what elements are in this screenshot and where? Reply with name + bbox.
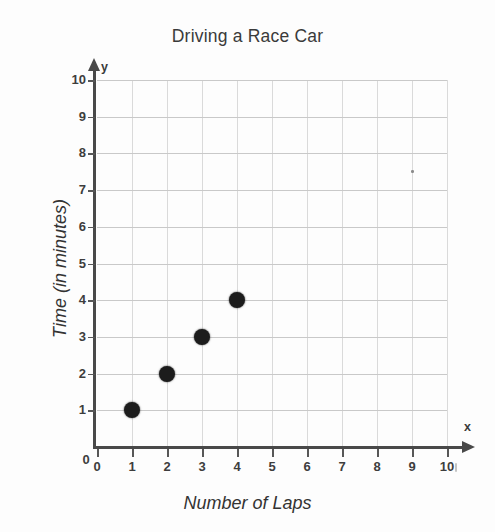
y-tick xyxy=(88,227,95,229)
chart-figure: Driving a Race Car y x 01234567891001234… xyxy=(0,0,495,532)
gridline-horizontal xyxy=(97,80,447,81)
plot-area xyxy=(97,80,447,447)
gridline-horizontal xyxy=(97,374,447,375)
y-tick-label: 10 xyxy=(58,72,86,87)
x-tick-label: 10 xyxy=(432,459,462,474)
chart-title: Driving a Race Car xyxy=(0,26,495,47)
gridline-horizontal xyxy=(97,153,447,154)
x-tick xyxy=(307,449,309,457)
x-tick-label: 5 xyxy=(257,459,287,474)
y-tick xyxy=(88,374,95,376)
x-tick xyxy=(412,449,414,457)
y-tick xyxy=(88,264,95,266)
data-point xyxy=(159,366,175,382)
y-axis-line xyxy=(93,68,96,449)
x-axis-line xyxy=(93,446,467,449)
y-axis-title: Time (in minutes) xyxy=(50,119,71,419)
y-tick xyxy=(88,153,95,155)
scan-speck-artifact xyxy=(455,463,457,472)
x-tick-label: 6 xyxy=(292,459,322,474)
x-tick-label: 3 xyxy=(187,459,217,474)
x-tick-label: 7 xyxy=(327,459,357,474)
y-tick-label: 0 xyxy=(72,452,100,467)
x-tick xyxy=(167,449,169,457)
x-axis-title: Number of Laps xyxy=(0,493,495,514)
x-tick xyxy=(342,449,344,457)
y-tick xyxy=(88,80,95,82)
gridline-horizontal xyxy=(97,190,447,191)
scan-speck-artifact xyxy=(411,170,414,173)
x-tick xyxy=(447,449,449,457)
y-axis-symbol: y xyxy=(101,60,108,74)
y-axis-arrow-icon xyxy=(88,58,100,71)
gridline-vertical xyxy=(447,80,448,447)
data-point xyxy=(194,329,210,345)
x-tick xyxy=(377,449,379,457)
x-tick-label: 1 xyxy=(117,459,147,474)
y-tick xyxy=(88,190,95,192)
x-axis-arrow-icon xyxy=(462,441,475,453)
x-tick-label: 9 xyxy=(397,459,427,474)
x-axis-symbol: x xyxy=(464,420,471,434)
gridline-horizontal xyxy=(97,117,447,118)
gridline-horizontal xyxy=(97,227,447,228)
y-tick xyxy=(88,410,95,412)
y-tick xyxy=(88,337,95,339)
x-tick xyxy=(202,449,204,457)
y-tick xyxy=(88,117,95,119)
x-tick-label: 4 xyxy=(222,459,252,474)
gridline-horizontal xyxy=(97,300,447,301)
x-tick-label: 2 xyxy=(152,459,182,474)
x-tick xyxy=(237,449,239,457)
x-tick-label: 8 xyxy=(362,459,392,474)
y-tick xyxy=(88,300,95,302)
x-tick xyxy=(272,449,274,457)
gridline-horizontal xyxy=(97,337,447,338)
gridline-horizontal xyxy=(97,264,447,265)
x-tick xyxy=(132,449,134,457)
gridline-horizontal xyxy=(97,410,447,411)
